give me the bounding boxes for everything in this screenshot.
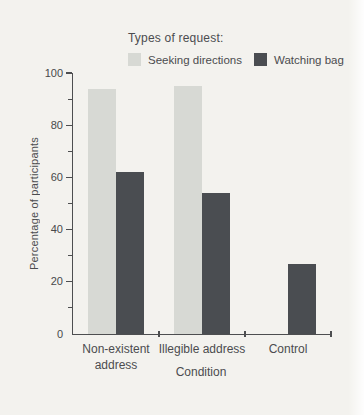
- y-tick-label: 0: [31, 328, 63, 340]
- bar-seeking-directions-illegible-address: [174, 86, 202, 334]
- y-minor-tick: [68, 203, 72, 204]
- bar-watching-bag-illegible-address: [202, 193, 230, 334]
- y-axis-title: Percentage of participants: [26, 73, 42, 334]
- y-minor-tick: [68, 99, 72, 100]
- y-minor-tick: [68, 307, 72, 308]
- bar-watching-bag-control: [288, 264, 316, 334]
- x-category-label-control: Control: [228, 342, 348, 358]
- y-tick-label: 100: [31, 67, 63, 79]
- y-tick-label: 60: [31, 171, 63, 183]
- y-tick-label: 40: [31, 223, 63, 235]
- y-major-tick: [66, 281, 72, 282]
- x-axis-title: Condition: [72, 365, 330, 379]
- y-tick-label: 20: [31, 275, 63, 287]
- page-scan-edge: [348, 0, 364, 415]
- x-tick: [330, 331, 331, 337]
- bar-watching-bag-non-existent-address: [116, 172, 144, 334]
- legend-title: Types of request:: [128, 31, 223, 45]
- y-major-tick: [66, 177, 72, 178]
- y-major-tick: [66, 125, 72, 126]
- seeking-directions-swatch-icon: [128, 53, 141, 66]
- legend-label-seeking-directions: Seeking directions: [148, 54, 242, 66]
- x-tick: [244, 331, 245, 337]
- legend: Seeking directions Watching bag: [128, 53, 344, 66]
- x-tick: [158, 331, 159, 337]
- plot-area: 020406080100Non-existent addressIllegibl…: [72, 73, 331, 335]
- legend-label-watching-bag: Watching bag: [274, 54, 344, 66]
- bar-chart-figure: Types of request: Seeking directions Wat…: [0, 0, 364, 415]
- y-minor-tick: [68, 151, 72, 152]
- y-major-tick: [66, 72, 72, 73]
- watching-bag-swatch-icon: [254, 53, 267, 66]
- legend-item-watching-bag: Watching bag: [254, 53, 344, 66]
- y-major-tick: [66, 229, 72, 230]
- legend-item-seeking-directions: Seeking directions: [128, 53, 242, 66]
- y-tick-label: 80: [31, 119, 63, 131]
- y-minor-tick: [68, 255, 72, 256]
- bar-seeking-directions-non-existent-address: [88, 89, 116, 334]
